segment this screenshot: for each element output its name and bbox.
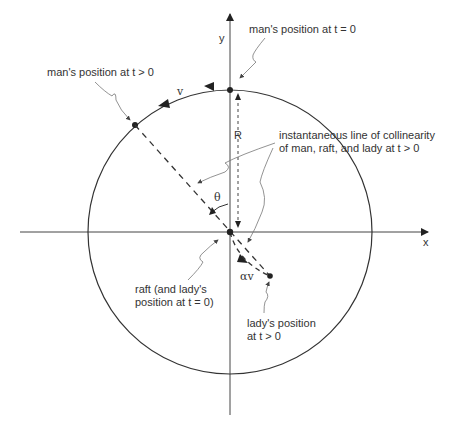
y-axis-label: y — [219, 32, 225, 44]
annotation-man-t: man's position at t > 0 — [47, 66, 154, 78]
leader-lady — [264, 282, 269, 313]
leader-raft — [188, 240, 218, 280]
x-axis-label: x — [423, 236, 429, 248]
radius-arrow-top-icon — [235, 93, 241, 100]
man-position-t0-dot — [227, 87, 233, 93]
diagram-canvas: x y v R αv θ man's position at t = 0 man… — [0, 0, 457, 431]
annotation-raft-2: position at t = 0) — [135, 296, 214, 308]
lady-position-dot — [267, 273, 273, 279]
angle-theta-label: θ — [214, 191, 221, 204]
leader-man-t — [95, 82, 130, 120]
motion-arrow-1-icon — [204, 82, 214, 91]
leader-man-t0 — [240, 38, 265, 78]
raft-dot — [227, 229, 233, 235]
lady-velocity-arrow-icon — [237, 254, 248, 263]
speed-v-label: v — [176, 85, 184, 98]
leader-collinear-upper — [198, 143, 275, 183]
annotation-lady-1: lady's position — [247, 317, 316, 329]
motion-arrow-2-icon — [158, 99, 170, 108]
radius-label: R — [234, 129, 242, 141]
radius-arrow-bottom-icon — [235, 221, 241, 228]
annotation-lady-2: at t > 0 — [247, 330, 281, 342]
lady-speed-label: αv — [240, 270, 254, 283]
leader-collinear-lower — [248, 148, 273, 242]
annotation-collinear-2: of man, raft, and lady at t > 0 — [279, 142, 419, 154]
annotation-raft-1: raft (and lady's — [135, 283, 207, 295]
annotation-man-t0: man's position at t = 0 — [249, 23, 356, 35]
annotation-collinear-1: instantaneous line of collinearity — [279, 129, 435, 141]
